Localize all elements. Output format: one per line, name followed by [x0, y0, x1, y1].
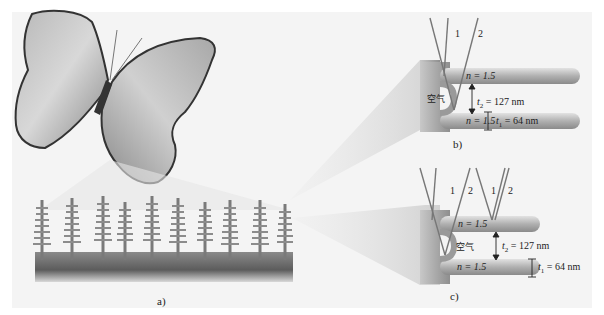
panel-b-t2-annotation: t2 = 127 nm	[477, 96, 524, 110]
panel-c-ray-2-right-label: 2	[508, 185, 513, 196]
panel-c-ray-1-left-label: 1	[450, 185, 455, 196]
panel-b-t1-annotation: t1 = 64 nm	[496, 115, 538, 129]
panel-c-gap-medium: 空气	[456, 240, 474, 253]
panel-c-n-top: n = 1.5	[458, 218, 487, 229]
t1-value: = 64 nm	[544, 261, 580, 272]
panel-c-ray-1-right-label: 1	[491, 185, 496, 196]
panel-b-n-bottom: n = 1.5	[466, 115, 495, 126]
panel-a-label: a)	[157, 295, 166, 307]
panel-b-ray-2-label: 2	[478, 28, 483, 39]
panel-b-n-top: n = 1.5	[466, 70, 495, 81]
panel-c-t2-annotation: t2 = 127 nm	[502, 240, 549, 254]
panel-b-label: b)	[453, 138, 462, 150]
figure-artwork	[0, 0, 604, 315]
t1-value: = 64 nm	[502, 115, 538, 126]
butterfly-illustration	[16, 11, 215, 183]
t2-value: = 127 nm	[508, 240, 549, 251]
panel-c-label: c)	[450, 290, 459, 302]
t2-value: = 127 nm	[483, 96, 524, 107]
panel-c-t1-annotation: t1 = 64 nm	[538, 261, 580, 275]
panel-b-ray-1-label: 1	[455, 28, 460, 39]
panel-c-ray-2-left-label: 2	[468, 185, 473, 196]
panel-b-gap-medium: 空气	[427, 92, 445, 105]
panel-c-n-bottom: n = 1.5	[457, 261, 486, 272]
